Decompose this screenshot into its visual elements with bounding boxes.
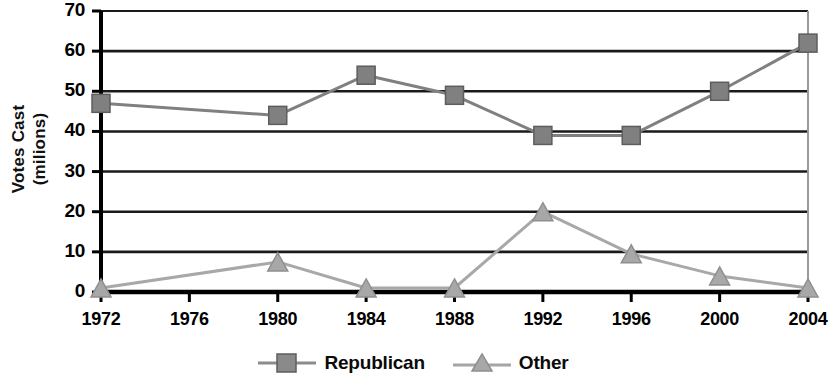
triangle-marker-icon — [451, 352, 513, 374]
legend-item-republican: Republican — [256, 352, 424, 374]
legend-label-republican: Republican — [324, 352, 424, 374]
gridlines — [101, 11, 808, 292]
series-line-other — [101, 212, 808, 288]
data-point-republican-1984 — [357, 66, 375, 84]
data-point-republican-1996 — [622, 126, 640, 144]
data-point-republican-1988 — [446, 86, 464, 104]
legend-label-other: Other — [519, 352, 569, 374]
axis-lines — [101, 11, 808, 292]
square-marker-icon — [256, 352, 318, 374]
data-point-republican-1980 — [269, 106, 287, 124]
data-series-layer — [91, 34, 818, 297]
data-point-republican-2004 — [799, 34, 817, 52]
data-point-republican-2000 — [711, 82, 729, 100]
chart-legend: Republican Other — [0, 352, 825, 374]
data-point-republican-1972 — [92, 94, 110, 112]
legend-item-other: Other — [451, 352, 569, 374]
data-point-other-1996 — [621, 245, 641, 263]
data-point-republican-1992 — [534, 126, 552, 144]
